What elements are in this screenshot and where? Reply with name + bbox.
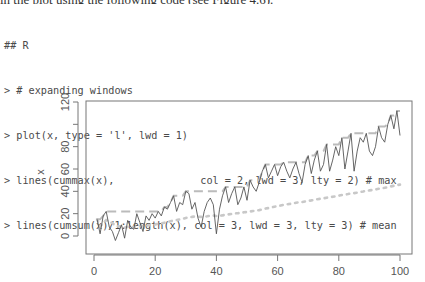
x-tick-label: 60 xyxy=(271,265,283,277)
x-tick-label: 40 xyxy=(210,265,222,277)
x-axis: 020406080100 xyxy=(91,255,409,277)
y-axis: 020406080120 xyxy=(59,93,78,239)
y-tick-label: 0 xyxy=(59,233,71,239)
y-tick-label: 40 xyxy=(59,185,71,197)
y-tick-label: 60 xyxy=(59,163,71,175)
series-cummax-line xyxy=(97,111,400,219)
y-tick-label: 20 xyxy=(59,208,71,220)
line-chart: 020406080120 020406080100 x xyxy=(0,0,425,282)
x-tick-label: 0 xyxy=(91,265,97,277)
series-x-line xyxy=(97,111,400,241)
x-tick-label: 100 xyxy=(391,265,409,277)
x-tick-label: 80 xyxy=(333,265,345,277)
plot-frame xyxy=(86,101,412,254)
y-axis-label: x xyxy=(34,169,46,175)
y-tick-label: 120 xyxy=(59,93,71,111)
y-tick-label: 80 xyxy=(59,141,71,153)
x-tick-label: 20 xyxy=(149,265,161,277)
